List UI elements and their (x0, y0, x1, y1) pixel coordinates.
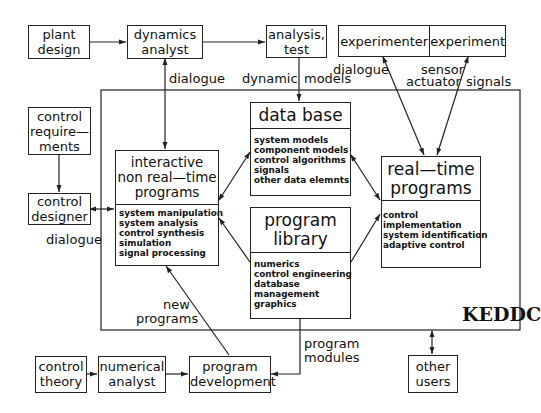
program-library-title-line2: library (251, 230, 350, 249)
analysis-test-line1: analysis, (267, 26, 326, 42)
other-users-line2: users (409, 374, 457, 389)
list-item: system models (254, 135, 347, 145)
list-item: implementation (383, 220, 477, 230)
control-requirements-line1: control (29, 108, 90, 124)
dynamics-analyst-line2: analyst (128, 42, 202, 57)
numerical-analyst-line2: analyst (99, 374, 165, 389)
control-requirements-line3: ments (29, 139, 90, 154)
plant-design-box: plant design (28, 25, 90, 59)
plant-design-line2: design (29, 42, 89, 57)
edge-label-programs: programs (136, 311, 198, 326)
edge-label-program: program (304, 336, 360, 351)
list-item: system analysis (119, 218, 215, 228)
control-theory-box: control theory (35, 356, 87, 393)
real-time-programs-box: real—time programs control implementatio… (381, 156, 481, 268)
other-users-box: other users (408, 355, 458, 393)
plant-design-line1: plant (29, 26, 89, 42)
analysis-test-box: analysis, test (266, 25, 327, 58)
experimenter-label: experimenter (340, 34, 428, 49)
list-item: management (254, 289, 347, 299)
edge-label-dialogue-top: dialogue (169, 71, 225, 86)
list-item: simulation (119, 238, 215, 248)
control-theory-line2: theory (36, 374, 86, 389)
list-item: adaptive control (383, 240, 477, 250)
list-item: database (254, 279, 347, 289)
program-development-line2: development (190, 374, 270, 389)
list-item: control engineering (254, 269, 347, 279)
interactive-title-line1: interactive (116, 153, 218, 170)
list-item: signal processing (119, 248, 215, 258)
real-time-function-list: control implementation system identifica… (382, 201, 480, 253)
list-item: system identification (383, 230, 477, 240)
list-item: component models (254, 145, 347, 155)
control-designer-box: control designer (28, 193, 91, 225)
control-requirements-box: control require— ments (28, 107, 91, 155)
dynamics-analyst-line1: dynamics (128, 26, 202, 42)
edge-label-modules: modules (304, 350, 360, 365)
experiment-label: experiment (430, 34, 505, 49)
edge-label-signals: signals (466, 74, 511, 89)
dynamics-analyst-box: dynamics analyst (127, 25, 203, 59)
list-item: control algorithms (254, 155, 347, 165)
edge-label-dialogue-left: dialogue (46, 232, 102, 247)
edge-label-actuator: actuator (406, 74, 461, 89)
edge-label-dynamic: dynamic (242, 71, 298, 86)
program-library-box: program library numerics control enginee… (250, 207, 351, 319)
program-library-title-line1: program (251, 211, 350, 230)
data-base-title: data base (251, 106, 350, 125)
real-time-title-line2: programs (382, 179, 480, 198)
list-item: numerics (254, 259, 347, 269)
real-time-title-line1: real—time (382, 160, 480, 179)
experimenter-experiment-box: experimenter experiment (338, 25, 506, 57)
list-item: graphics (254, 299, 347, 309)
edge-label-new: new (163, 297, 190, 312)
list-item: other data elemnts (254, 175, 347, 185)
program-library-content-list: numerics control engineering database ma… (251, 253, 350, 312)
control-theory-line1: control (36, 359, 86, 374)
numerical-analyst-box: numerical analyst (98, 356, 166, 393)
keddc-system-label: KEDDC (462, 303, 541, 325)
interactive-title-line3: programs (116, 185, 218, 200)
numerical-analyst-line1: numerical (99, 359, 165, 374)
control-designer-line1: control (29, 194, 90, 209)
list-item: control synthesis (119, 228, 215, 238)
other-users-line1: other (409, 359, 457, 374)
list-item: signals (254, 165, 347, 175)
analysis-test-line2: test (267, 42, 326, 57)
program-development-line1: program (190, 359, 270, 374)
list-item: control (383, 210, 477, 220)
control-requirements-line2: require— (29, 124, 90, 139)
interactive-title-line2: non real—time (116, 170, 218, 185)
data-base-content-list: system models component models control a… (251, 129, 350, 188)
edge-label-dialogue-right: dialogue (333, 62, 389, 77)
interactive-function-list: system manipulation system analysis cont… (116, 205, 218, 261)
data-base-box: data base system models component models… (250, 102, 351, 196)
interactive-programs-box: interactive non real—time programs syste… (115, 150, 219, 266)
control-designer-line2: designer (29, 209, 90, 224)
list-item: system manipulation (119, 208, 215, 218)
program-development-box: program development (189, 356, 271, 393)
